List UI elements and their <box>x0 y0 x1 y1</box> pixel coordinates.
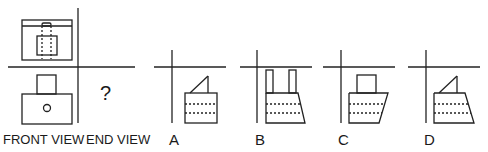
option-d-figure <box>408 50 480 123</box>
option-d-label[interactable]: D <box>424 131 435 148</box>
option-c-figure <box>323 50 395 123</box>
unknown-end-view: ? <box>100 82 111 105</box>
option-c-label[interactable]: C <box>338 131 349 148</box>
option-b-label[interactable]: B <box>255 131 265 148</box>
end-view-label: END VIEW <box>86 132 150 147</box>
option-a-figure <box>154 50 226 123</box>
views-diagram <box>0 0 488 152</box>
option-a-label[interactable]: A <box>169 131 179 148</box>
top-view <box>22 20 72 60</box>
front-view-label: FRONT VIEW <box>3 132 84 147</box>
front-view <box>22 75 72 124</box>
option-b-figure <box>240 50 312 123</box>
